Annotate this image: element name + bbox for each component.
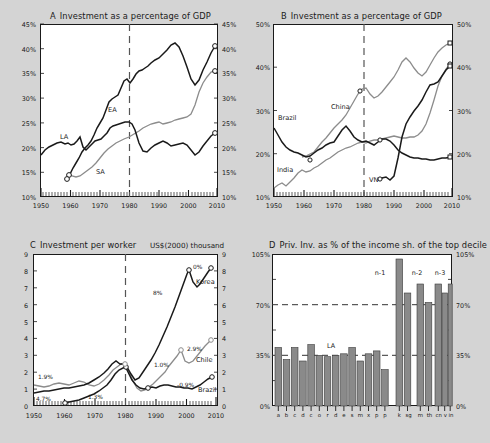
panel-a-label-la: LA xyxy=(60,133,68,141)
panel-a-ytick-20: 20% xyxy=(14,145,36,153)
panel-d-title: DPriv. Inv. as % of the income sh. of th… xyxy=(269,240,487,250)
panel-b-title-text: Investment as a percentage of GDP xyxy=(291,11,442,21)
panel-b-ytick-right-10: 10% xyxy=(457,194,471,202)
panel-d-cat-18: k xyxy=(398,412,401,418)
panel-a-xtick-1980: 1980 xyxy=(121,202,137,210)
panel-a-ytick-right-25: 25% xyxy=(222,120,236,128)
panel-a-ytick-10: 10% xyxy=(14,194,36,202)
panel-d-group-la: LA xyxy=(327,342,335,350)
panel-a-xtick-2000: 2000 xyxy=(180,202,196,210)
panel-a-ytick-40: 40% xyxy=(14,46,36,54)
panel-a-ytick-right-15: 15% xyxy=(222,169,236,177)
panel-c-ytick-right-7: 7 xyxy=(222,285,226,293)
panel-b-ytick-right-20: 20% xyxy=(457,151,471,159)
panel-d-group-n1: n-1 xyxy=(375,269,385,277)
panel-c-ytick-3: 3 xyxy=(14,352,28,360)
panel-a-ytick-right-40: 40% xyxy=(222,46,236,54)
panel-b-ytick-right-50: 50% xyxy=(457,21,471,29)
panel-c-xtick-1960: 1960 xyxy=(56,412,72,420)
panel-b-ytick-right-30: 30% xyxy=(457,108,471,116)
panel-d-cat-12: p xyxy=(375,412,378,418)
panel-a-ytick-right-10: 10% xyxy=(222,194,236,202)
panel-a-ytick-30: 30% xyxy=(14,95,36,103)
panel-b-label-vn: VN xyxy=(369,176,378,184)
panel-c-annot-brazil-neg09: -0.9% xyxy=(177,382,194,388)
panel-d-ytick-right-70: 70% xyxy=(456,302,470,310)
panel-c-ytick-right-1: 1 xyxy=(222,386,226,394)
panel-b-xtick-1970: 1970 xyxy=(326,202,342,210)
panel-a-ytick-right-35: 35% xyxy=(222,70,236,78)
panel-c-annot-chile-19: 1.9% xyxy=(38,374,53,380)
panel-d-cat-23: v xyxy=(444,412,447,418)
panel-c-ytick-right-8: 8 xyxy=(222,268,226,276)
panel-b-label-india: India xyxy=(277,166,293,174)
panel-c-ytick-right-2: 2 xyxy=(222,369,226,377)
panel-d-plot xyxy=(272,254,452,406)
panel-c-annot-korea-47: 4.7% xyxy=(36,396,51,402)
panel-d-cat-8: e xyxy=(342,412,345,418)
panel-c-ytick-2: 2 xyxy=(14,369,28,377)
panel-d-cat-0: a xyxy=(277,412,280,418)
panel-c-annot-brazil-13: 1.3% xyxy=(88,394,103,400)
panel-c-ytick-right-4: 4 xyxy=(222,335,226,343)
panel-b-xtick-1980: 1980 xyxy=(356,202,372,210)
panel-d-cat-3: d xyxy=(301,412,304,418)
panel-d-cat-24: in xyxy=(449,412,454,418)
panel-d-ytick-0: 0% xyxy=(245,403,270,411)
panel-d: DPriv. Inv. as % of the income sh. of th… xyxy=(245,222,490,422)
panel-c-ytick-9: 9 xyxy=(14,251,28,259)
panel-b-label-china: China xyxy=(331,103,350,111)
panel-a-xtick-1970: 1970 xyxy=(92,202,108,210)
panel-d-group-n3: n-3 xyxy=(435,269,445,277)
panel-b-ytick-30: 30% xyxy=(245,108,270,116)
panel-b-ytick-10: 10% xyxy=(245,194,270,202)
panel-d-cat-22: cn xyxy=(436,412,442,418)
panel-a-xtick-2010: 2010 xyxy=(209,202,225,210)
panel-a-ytick-35: 35% xyxy=(14,70,36,78)
panel-a-label-ea: EA xyxy=(108,106,117,114)
panel-b-label-brazil: Brazil xyxy=(278,114,296,122)
panel-d-cat-21: th xyxy=(427,412,433,418)
panel-d-cat-4: c xyxy=(310,412,313,418)
panel-a-label-sa: SA xyxy=(96,168,105,176)
panel-d-group-n2: n-2 xyxy=(412,269,422,277)
panel-c: CInvestment per worker US$(2000) thousan… xyxy=(0,222,245,422)
panel-c-ytick-6: 6 xyxy=(14,302,28,310)
panel-a-ytick-45: 45% xyxy=(14,21,36,29)
panel-c-xtick-1990: 1990 xyxy=(148,412,164,420)
panel-b-ytick-right-40: 40% xyxy=(457,64,471,72)
panel-c-annot-korea-8: 8% xyxy=(153,290,162,296)
panel-a-xtick-1990: 1990 xyxy=(151,202,167,210)
panel-d-ytick-right-35: 35% xyxy=(456,352,470,360)
panel-c-ytick-right-6: 6 xyxy=(222,302,226,310)
panel-d-cat-2: c xyxy=(293,412,296,418)
panel-b-letter: B xyxy=(281,11,287,21)
panel-a-letter: A xyxy=(50,11,56,21)
panel-d-ytick-right-105: 105% xyxy=(456,251,474,259)
panel-c-ytick-1: 1 xyxy=(14,386,28,394)
panel-a-ytick-right-45: 45% xyxy=(222,21,236,29)
panel-a-plot xyxy=(40,24,218,197)
panel-b-xtick-2010: 2010 xyxy=(444,202,460,210)
panel-d-cat-13: p xyxy=(383,412,386,418)
panel-c-ytick-4: 4 xyxy=(14,335,28,343)
panel-d-cat-20: m xyxy=(418,412,423,418)
panel-d-cat-7: d xyxy=(334,412,337,418)
panel-c-title: CInvestment per worker xyxy=(30,240,136,250)
panel-a-title-text: Investment as a percentage of GDP xyxy=(60,11,211,21)
panel-c-annot-chile-29: 2.9% xyxy=(187,346,202,352)
panel-c-xtick-1970: 1970 xyxy=(87,412,103,420)
panel-a: AInvestment as a percentage of GDP 45% 4… xyxy=(0,0,245,222)
panel-c-subtitle: US$(2000) thousand xyxy=(150,241,224,250)
panel-b-xtick-1950: 1950 xyxy=(266,202,282,210)
panel-d-cat-5: o xyxy=(318,412,321,418)
panel-c-letter: C xyxy=(30,240,36,250)
panel-c-label-korea: Korea xyxy=(196,278,215,286)
panel-d-cat-6: r xyxy=(326,412,328,418)
panel-c-ytick-5: 5 xyxy=(14,319,28,327)
panel-b-xtick-1960: 1960 xyxy=(296,202,312,210)
panel-c-label-brazil: Brazil xyxy=(198,386,216,394)
panel-d-title-text: Priv. Inv. as % of the income sh. of the… xyxy=(280,240,488,250)
panel-d-ytick-right-0: 0% xyxy=(456,403,466,411)
figure-canvas: AInvestment as a percentage of GDP 45% 4… xyxy=(0,0,490,443)
